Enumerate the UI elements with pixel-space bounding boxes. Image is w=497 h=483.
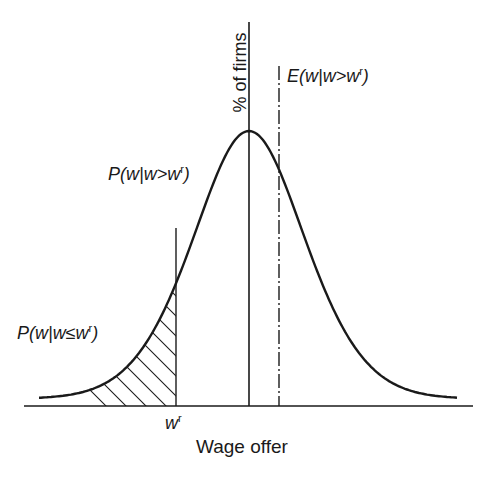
label-text: ): [184, 164, 190, 184]
reservation-wage-label: wr: [165, 412, 182, 434]
density-curve: [39, 131, 457, 398]
y-axis-label: % of firms: [230, 32, 251, 112]
label-text: ): [92, 323, 98, 343]
label-text: P(w|w≤w: [17, 323, 89, 343]
label-text: P(w|w>w: [108, 164, 180, 184]
label-sup: r: [178, 412, 182, 424]
label-text: ): [363, 66, 369, 86]
upper-tail-label: P(w|w>wr): [108, 163, 190, 185]
x-axis-label: Wage offer: [196, 436, 288, 458]
label-text: w: [165, 413, 178, 433]
lower-tail-label: P(w|w≤wr): [17, 322, 98, 344]
label-text: E(w|w>w: [287, 66, 359, 86]
expected-wage-label: E(w|w>wr): [287, 65, 369, 87]
